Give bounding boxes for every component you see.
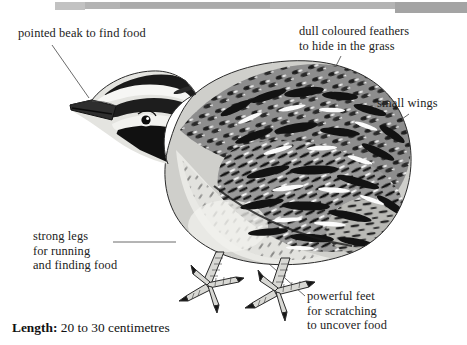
length-caption-value: 20 to 30 centimetres [57,320,169,335]
label-dull-coloured-feathers: dull coloured feathers to hide in the gr… [299,24,409,53]
label-small-wings: small wings [377,96,438,111]
length-caption: Length: 20 to 30 centimetres [12,320,170,336]
diagram-page: pointed beak to find food dull coloured … [0,0,467,345]
leg-front [245,258,315,321]
leg-rear [179,252,244,313]
leader-line-beak [52,45,89,98]
label-powerful-feet: powerful feet for scratching to uncover … [307,289,387,333]
label-pointed-beak: pointed beak to find food [18,26,146,41]
label-strong-legs: strong legs for running and finding food [33,229,117,273]
length-caption-key: Length: [12,320,57,335]
quail-body [165,61,414,265]
